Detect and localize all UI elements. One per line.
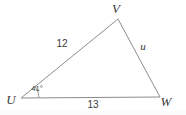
side-label-uv: 12 <box>56 38 68 49</box>
angle-label-at-u: 41° <box>31 84 42 93</box>
triangle-diagram: 41° 12 13 u U V W <box>0 0 186 115</box>
geometry-figure-canvas: 41° 12 13 u U V W <box>0 0 186 115</box>
vertex-label-w: W <box>161 94 173 109</box>
bottom-edge-band <box>0 111 186 115</box>
side-label-uw: 13 <box>87 99 99 110</box>
vertex-label-v: V <box>112 1 122 16</box>
side-label-vw: u <box>140 40 146 52</box>
vertex-label-u: U <box>6 92 17 107</box>
